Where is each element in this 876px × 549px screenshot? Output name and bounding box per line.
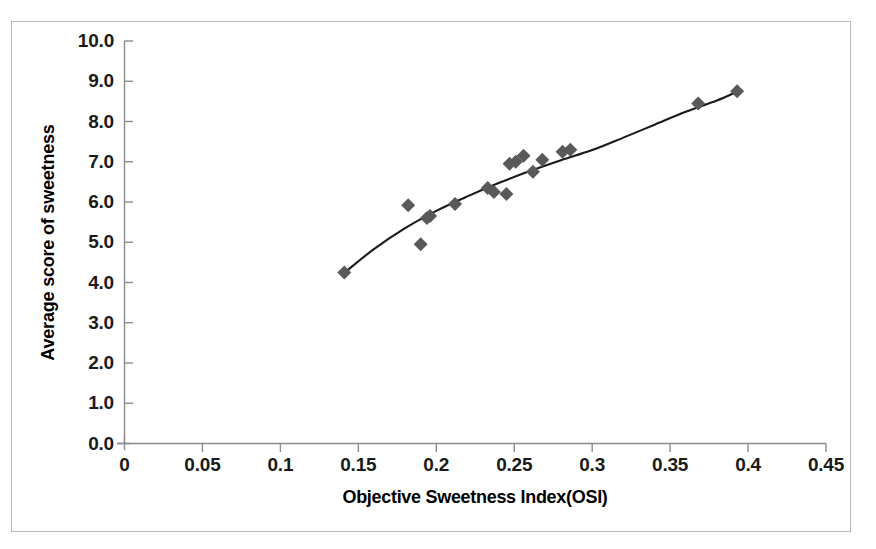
axis-lines: [117, 41, 826, 444]
data-point-marker: [499, 187, 513, 201]
x-tick-label: 0.45: [791, 455, 861, 474]
y-tick-label: 0.0: [56, 434, 114, 453]
x-axis-tick-labels: 00.050.10.150.20.250.30.350.40.45: [0, 455, 876, 485]
x-tick-label: 0.25: [479, 455, 549, 474]
data-point-marker: [730, 84, 744, 98]
x-tick-label: 0.2: [401, 455, 471, 474]
y-tick-label: 9.0: [56, 71, 114, 90]
trendline: [344, 92, 737, 273]
y-tick-label: 10.0: [56, 31, 114, 50]
y-tick-label: 3.0: [56, 313, 114, 332]
x-tick-label: 0.3: [557, 455, 627, 474]
x-tick-label: 0.05: [167, 455, 237, 474]
y-tick-label: 7.0: [56, 152, 114, 171]
data-point-marker: [526, 165, 540, 179]
x-axis-title: Objective Sweetness Index(OSI): [124, 487, 826, 508]
x-tick-label: 0.1: [245, 455, 315, 474]
y-tick-label: 8.0: [56, 112, 114, 131]
data-point-marker: [401, 198, 415, 212]
y-tick-label: 6.0: [56, 192, 114, 211]
data-point-marker: [414, 237, 428, 251]
y-tick-label: 4.0: [56, 273, 114, 292]
y-axis-title: Average score of sweetness: [38, 78, 59, 408]
x-tick-label: 0.35: [635, 455, 705, 474]
x-tick-label: 0.15: [323, 455, 393, 474]
y-tick-label: 5.0: [56, 232, 114, 251]
x-tick-label: 0: [90, 455, 160, 474]
y-tick-label: 1.0: [56, 393, 114, 412]
y-tick-label: 2.0: [56, 353, 114, 372]
x-tick-label: 0.4: [713, 455, 783, 474]
